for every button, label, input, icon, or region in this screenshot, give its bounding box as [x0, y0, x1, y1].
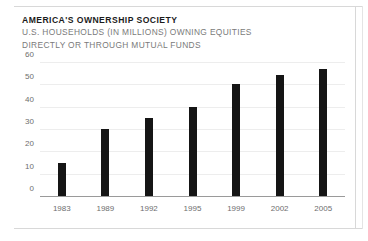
bar [319, 69, 327, 196]
y-axis-tick-label: 20 [25, 139, 34, 148]
top-divider [14, 6, 362, 7]
bar [276, 75, 284, 196]
x-axis-tick-label: 1995 [184, 204, 202, 213]
y-axis-tick-label: 10 [25, 161, 34, 170]
bar [189, 107, 197, 196]
right-divider [355, 6, 356, 229]
y-gridline [40, 62, 345, 63]
x-axis-tick-label: 1989 [96, 204, 114, 213]
bar [101, 129, 109, 196]
x-axis-line [40, 196, 345, 197]
y-axis-tick-label: 0 [30, 184, 34, 193]
y-axis-tick-label: 30 [25, 117, 34, 126]
right-divider-outer [362, 6, 363, 229]
subtitle-line-1: U.S. HOUSEHOLDS (IN MILLIONS) OWNING EQU… [22, 26, 342, 39]
page-title: AMERICA'S OWNERSHIP SOCIETY [22, 14, 342, 26]
x-axis-tick-label: 1992 [140, 204, 158, 213]
bar-chart-plot: 0102030405060198319891992199519992002200… [40, 62, 345, 197]
y-axis-tick-label: 50 [25, 72, 34, 81]
chart-header: AMERICA'S OWNERSHIP SOCIETY U.S. HOUSEHO… [22, 14, 342, 51]
bottom-divider [14, 228, 362, 229]
y-axis-tick-label: 60 [25, 50, 34, 59]
bar [58, 163, 66, 197]
y-gridline [40, 84, 345, 85]
subtitle-line-2: DIRECTLY OR THROUGH MUTUAL FUNDS [22, 39, 342, 52]
x-axis-tick-label: 1983 [53, 204, 71, 213]
x-axis-tick-label: 2002 [271, 204, 289, 213]
chart-page: AMERICA'S OWNERSHIP SOCIETY U.S. HOUSEHO… [0, 0, 368, 241]
y-axis-tick-label: 40 [25, 94, 34, 103]
bar [232, 84, 240, 196]
x-axis-tick-label: 2005 [314, 204, 332, 213]
bar [145, 118, 153, 196]
x-axis-tick-label: 1999 [227, 204, 245, 213]
